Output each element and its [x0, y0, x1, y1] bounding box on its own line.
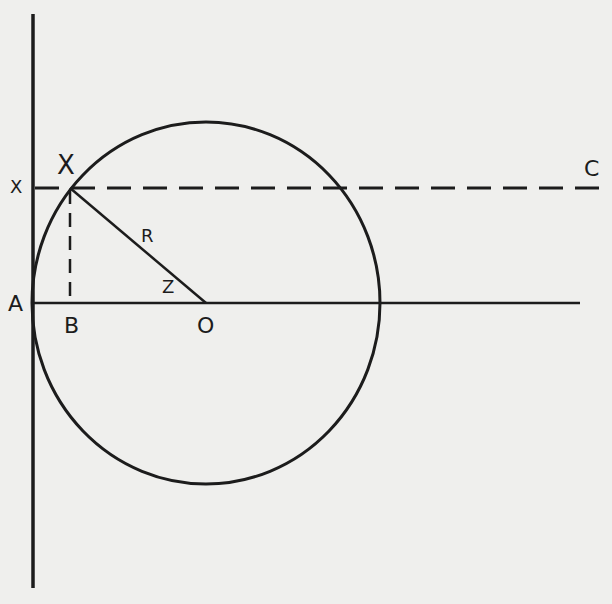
label-O: O [197, 315, 214, 337]
label-R: R [141, 227, 154, 245]
label-X-point: X [57, 152, 75, 178]
label-A: A [8, 293, 23, 315]
geometry-diagram: X X C R Z A B O [0, 0, 612, 604]
diagram-canvas [0, 0, 612, 604]
radius-line-R [70, 188, 206, 303]
label-C: C [584, 158, 599, 180]
label-X-axis: X [10, 178, 22, 196]
label-B: B [64, 315, 79, 337]
label-z: Z [162, 278, 174, 296]
